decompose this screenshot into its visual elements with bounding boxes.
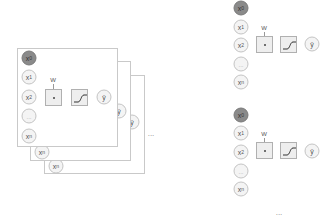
input-node-x1: x1 <box>22 70 37 85</box>
dot-product-box-top <box>256 36 273 53</box>
bias-node-x0: x0 <box>22 51 37 66</box>
dot-product-box-bottom <box>256 142 273 159</box>
sigmoid-box <box>71 89 88 106</box>
input-node-ellipsis-bottom: ... <box>234 164 249 179</box>
input-node-x2-bottom: x2 <box>234 145 249 160</box>
sigmoid-box-top <box>280 36 297 53</box>
input-node-ellipsis: ... <box>22 109 37 124</box>
input-node-xn: xn <box>22 129 37 144</box>
input-node-x1-top: x1 <box>234 20 249 35</box>
sigmoid-curve-icon <box>72 90 89 107</box>
input-node-xn-bottom: xn <box>234 182 249 197</box>
output-node-yhat: ŷ <box>97 90 112 105</box>
weight-label-top: W <box>261 25 267 31</box>
sigmoid-curve-icon <box>281 143 298 160</box>
input-node-x2: x2 <box>22 90 37 105</box>
input-node-x2-top: x2 <box>234 38 249 53</box>
stack-continuation-ellipsis: ... <box>148 129 155 138</box>
sigmoid-box-bottom <box>280 142 297 159</box>
input-node-ellipsis-top: ... <box>234 57 249 72</box>
weight-label-bottom: W <box>261 131 267 137</box>
sigmoid-curve-icon <box>281 37 298 54</box>
dot-product-box <box>45 89 62 106</box>
input-node-xn-top: xn <box>234 75 249 90</box>
weight-label: W <box>50 77 56 83</box>
input-node-x1-bottom: x1 <box>234 126 249 141</box>
bias-node-x0-top: x0 <box>234 1 249 16</box>
bias-node-x0-bottom: x0 <box>234 108 249 123</box>
right-continuation-ellipsis: ... <box>276 208 283 217</box>
output-node-yhat-bottom: ŷ <box>305 144 320 159</box>
output-node-yhat-top: ŷ <box>305 37 320 52</box>
